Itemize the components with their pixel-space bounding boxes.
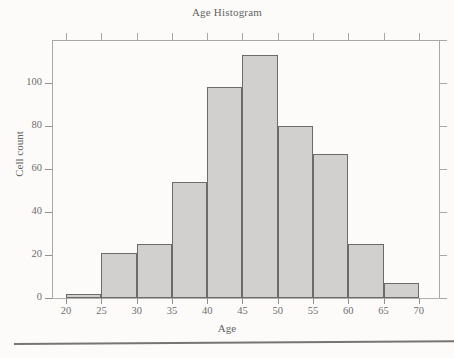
histogram-bar bbox=[242, 55, 277, 298]
histogram-figure: Age Histogram Cell count Age 02040608010… bbox=[0, 0, 454, 358]
histogram-bar bbox=[207, 87, 242, 298]
histogram-bar bbox=[137, 244, 172, 298]
histogram-bar bbox=[172, 182, 207, 298]
histogram-bar bbox=[384, 283, 419, 298]
histogram-bar bbox=[313, 154, 348, 298]
histogram-bar bbox=[278, 126, 313, 298]
histogram-bar bbox=[66, 294, 101, 298]
bars-layer bbox=[0, 0, 454, 358]
histogram-bar bbox=[348, 244, 383, 298]
histogram-bar bbox=[101, 253, 136, 298]
